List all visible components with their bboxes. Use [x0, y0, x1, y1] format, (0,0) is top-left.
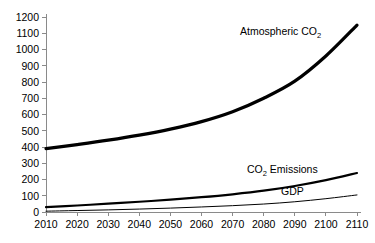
- series-label-co2-emissions: CO2 Emissions: [247, 163, 318, 178]
- y-tick-label: 1200: [16, 11, 40, 23]
- series-curve-co2-emissions: [46, 173, 357, 207]
- x-tick-label: 2020: [65, 218, 89, 230]
- y-tick-label: 500: [21, 125, 39, 137]
- line-chart: 0100200300400500600700800900100011001200…: [0, 0, 375, 243]
- y-tick-label: 800: [21, 76, 39, 88]
- y-tick-label: 100: [21, 190, 39, 202]
- chart-container: 0100200300400500600700800900100011001200…: [0, 0, 375, 243]
- x-tick-label: 2010: [34, 218, 58, 230]
- series-label-group: Atmospheric CO2CO2 EmissionsGDP: [240, 25, 321, 197]
- y-tick-label: 0: [33, 206, 39, 218]
- y-tick-label: 1100: [16, 27, 39, 39]
- x-tick-label: 2080: [252, 218, 276, 230]
- y-tick-label: 300: [21, 157, 39, 169]
- series-curve-atmospheric-co2: [46, 25, 357, 149]
- x-tick-label: 2030: [97, 218, 121, 230]
- y-tick-label: 1000: [16, 43, 40, 55]
- x-tick-label: 2070: [221, 218, 245, 230]
- y-tick-label: 700: [21, 92, 39, 104]
- y-axis-tick-group: 0100200300400500600700800900100011001200: [16, 11, 46, 218]
- x-tick-label: 2040: [128, 218, 152, 230]
- x-tick-label: 2060: [190, 218, 214, 230]
- y-tick-label: 400: [21, 141, 39, 153]
- x-axis-tick-group: 2010202020302040205020602070208020902100…: [34, 212, 368, 230]
- x-tick-label: 2100: [314, 218, 338, 230]
- y-tick-label: 900: [21, 60, 39, 72]
- x-tick-label: 2090: [283, 218, 307, 230]
- y-tick-label: 200: [21, 173, 39, 185]
- x-tick-label: 2050: [159, 218, 183, 230]
- series-label-atmospheric-co2: Atmospheric CO2: [240, 25, 321, 40]
- series-curve-group: [46, 25, 357, 211]
- x-tick-label: 2110: [346, 218, 369, 230]
- y-tick-label: 600: [21, 108, 39, 120]
- series-label-gdp: GDP: [281, 185, 304, 197]
